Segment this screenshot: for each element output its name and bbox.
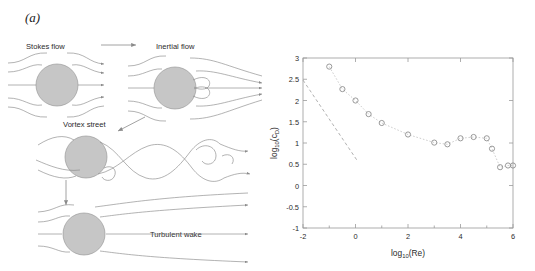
x-tick-label: 2	[406, 232, 410, 241]
x-tick-label: -2	[300, 232, 307, 241]
regime-stokes-flow: Stokes flow	[8, 42, 104, 117]
stokes-law-dashed-line	[303, 80, 358, 162]
regime-label-turbulent: Turbulent wake	[150, 230, 202, 239]
chart-axes-frame	[303, 58, 513, 228]
regime-label-inertial: Inertial flow	[156, 42, 195, 51]
data-point	[379, 120, 384, 125]
x-tick-label: 4	[458, 232, 462, 241]
y-axis-title: log10(cD)	[269, 127, 280, 159]
svg-text:log10(cD): log10(cD)	[269, 127, 280, 159]
y-tick-label: -0.5	[286, 203, 299, 212]
sphere-turbulent	[63, 213, 105, 255]
data-point	[353, 98, 358, 103]
x-tick-label: 6	[511, 232, 515, 241]
y-tick-label: 2	[295, 97, 299, 106]
regime-label-stokes: Stokes flow	[26, 42, 65, 51]
regime-inertial-flow: Inertial flow	[128, 42, 262, 121]
streamlines-inertial	[128, 56, 262, 121]
drag-coefficient-chart: 3 2.5 2 1.5 1 0.5 0 -0.5 -1 log10(cD)	[265, 0, 535, 271]
panel-a-diagram: Stokes flow	[0, 0, 270, 271]
regime-label-vortex: Vortex street	[63, 120, 107, 129]
x-axis-title: log10(Re)	[391, 248, 425, 259]
sphere-inertial	[154, 67, 196, 109]
regime-vortex-street: Vortex street	[36, 120, 250, 181]
x-axis-tick-labels: -2 0 2 4 6	[300, 232, 515, 241]
panel-a-flow-regimes: (a) Stokes flow	[0, 0, 270, 271]
y-axis-ticks	[303, 58, 513, 228]
y-axis-title-arg-open: (c	[269, 134, 279, 141]
data-point	[489, 146, 494, 151]
y-axis-title-base: log	[269, 147, 279, 159]
x-axis-title-arg: (Re)	[409, 248, 425, 258]
y-tick-label: 2.5	[289, 75, 299, 84]
y-tick-label: 1	[295, 139, 299, 148]
figure-container: (a) Stokes flow	[0, 0, 535, 271]
y-tick-label: 0.5	[289, 160, 299, 169]
x-tick-label: 0	[353, 232, 357, 241]
regime-turbulent-wake: Turbulent wake	[38, 193, 248, 262]
drag-data-points	[327, 64, 516, 170]
x-axis-ticks	[303, 58, 513, 228]
y-tick-label: 3	[295, 54, 299, 63]
y-axis-title-arg-close: )	[269, 127, 279, 130]
y-axis: 3 2.5 2 1.5 1 0.5 0 -0.5 -1 log10(cD)	[269, 54, 513, 233]
y-axis-tick-labels: 3 2.5 2 1.5 1 0.5 0 -0.5 -1	[286, 54, 299, 233]
x-axis: -2 0 2 4 6 log10(Re)	[300, 58, 515, 259]
arrow-inertial-to-vortex	[118, 117, 145, 131]
y-tick-label: -1	[292, 224, 299, 233]
drag-curve-connector	[329, 67, 513, 168]
panel-a-label: (a)	[25, 10, 40, 26]
data-point	[340, 87, 345, 92]
panel-b-drag-curve: (b)	[265, 0, 535, 271]
y-tick-label: 0	[295, 182, 299, 191]
y-tick-label: 1.5	[289, 118, 299, 127]
x-axis-title-base: log	[391, 248, 403, 258]
sphere-stokes	[36, 64, 78, 106]
